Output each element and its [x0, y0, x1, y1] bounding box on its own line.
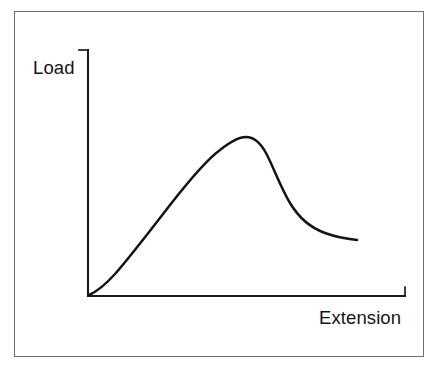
y-axis-label: Load: [33, 59, 75, 78]
load-extension-curve: [89, 137, 357, 295]
figure-root: Load Extension: [0, 0, 434, 371]
x-axis-label: Extension: [319, 309, 401, 328]
